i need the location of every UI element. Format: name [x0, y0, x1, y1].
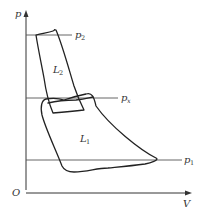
- origin-label: O: [12, 187, 20, 198]
- y-axis-arrow-icon: [24, 10, 29, 17]
- x-axis-arrow-icon: [185, 191, 192, 196]
- svg-text:p: p: [15, 8, 22, 19]
- svg-text:2: 2: [81, 34, 85, 42]
- px-label: p x: [121, 92, 131, 105]
- svg-text:V: V: [183, 198, 192, 209]
- l1-label: L 1: [79, 133, 90, 146]
- svg-text:x: x: [127, 97, 131, 105]
- y-axis-label: p: [15, 8, 22, 19]
- svg-text:1: 1: [190, 159, 194, 167]
- svg-text:O: O: [12, 187, 20, 198]
- pv-diagram: p V O p 2 p x p 1 L 2 L 1: [0, 0, 199, 216]
- l2-label: L 2: [52, 64, 63, 77]
- svg-text:2: 2: [59, 69, 63, 77]
- x-axis-label: V: [183, 198, 192, 209]
- p2-label: p 2: [75, 29, 85, 42]
- svg-text:1: 1: [86, 138, 90, 146]
- p1-label: p 1: [184, 154, 194, 167]
